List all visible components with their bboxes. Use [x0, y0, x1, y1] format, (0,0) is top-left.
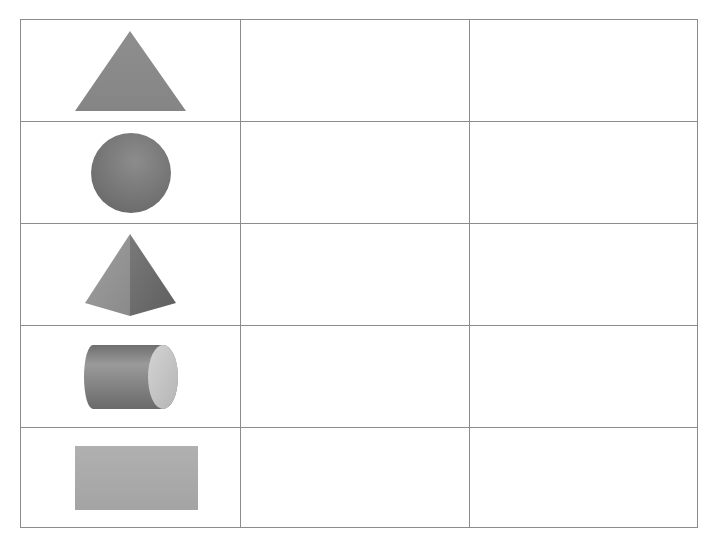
rectangle-icon: [75, 445, 199, 511]
shape-cell-cylinder: [21, 326, 241, 428]
table-cell[interactable]: [241, 122, 470, 224]
pyramid-icon: [84, 232, 178, 318]
shape-cell-circle: [21, 122, 241, 224]
cylinder-icon: [83, 343, 179, 411]
circle-icon: [90, 132, 172, 214]
shapes-table: [20, 19, 698, 528]
table-cell[interactable]: [241, 326, 470, 428]
triangle-icon: [74, 29, 188, 113]
table-cell[interactable]: [241, 20, 470, 122]
shape-cell-rectangle: [21, 428, 241, 527]
table-cell[interactable]: [470, 428, 697, 527]
table-cell[interactable]: [470, 224, 697, 326]
table-cell[interactable]: [241, 224, 470, 326]
shape-cell-pyramid: [21, 224, 241, 326]
table-cell[interactable]: [470, 122, 697, 224]
table-cell[interactable]: [241, 428, 470, 527]
shape-cell-triangle: [21, 20, 241, 122]
table-cell[interactable]: [470, 20, 697, 122]
table-cell[interactable]: [470, 326, 697, 428]
